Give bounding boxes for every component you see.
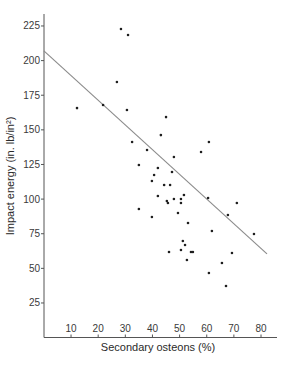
x-tick-label: 10 (65, 323, 77, 334)
data-point (127, 34, 130, 37)
data-point (173, 198, 176, 201)
data-point (211, 230, 214, 233)
y-tick-label: 50 (29, 263, 41, 274)
data-point (200, 151, 203, 154)
data-point (157, 167, 160, 170)
x-tick-label: 50 (174, 323, 186, 334)
data-point (160, 134, 163, 137)
data-point (126, 109, 129, 112)
data-point (151, 216, 154, 219)
data-point (231, 252, 234, 255)
x-tick-label: 40 (147, 323, 159, 334)
y-tick-label: 100 (23, 194, 40, 205)
data-point (184, 244, 187, 247)
data-point (207, 197, 210, 200)
data-point (192, 251, 195, 254)
data-point (131, 141, 134, 144)
data-point (138, 208, 141, 211)
x-tick-label: 60 (201, 323, 213, 334)
data-point (208, 141, 211, 144)
data-point (120, 28, 123, 31)
x-tick-label: 20 (93, 323, 105, 334)
data-point (76, 107, 79, 110)
data-point (180, 202, 183, 205)
data-point (146, 149, 149, 152)
data-point (169, 184, 172, 187)
data-point (186, 259, 189, 262)
data-point (177, 212, 180, 215)
data-point (116, 81, 119, 84)
axes (44, 14, 277, 338)
data-point (180, 249, 183, 252)
y-tick-label: 150 (23, 124, 40, 135)
y-tick-label: 225 (23, 20, 40, 31)
y-tick-label: 125 (23, 159, 40, 170)
x-tick-label: 30 (120, 323, 132, 334)
data-point (180, 198, 183, 201)
data-point (157, 195, 160, 198)
data-point (221, 262, 224, 265)
data-point (236, 202, 239, 205)
y-tick-label: 200 (23, 55, 40, 66)
y-tick-label: 75 (29, 228, 41, 239)
data-point (167, 202, 170, 205)
y-axis-ticks: 255075100125150175200225 (23, 20, 44, 308)
data-point (208, 272, 211, 275)
y-axis-label: Impact energy (in. lb/in²) (4, 117, 16, 236)
data-point (165, 116, 168, 119)
data-point (183, 194, 186, 197)
data-points (76, 28, 256, 288)
x-axis-label: Secondary osteons (%) (101, 341, 215, 353)
data-point (138, 164, 141, 167)
data-point (168, 251, 171, 254)
y-tick-label: 25 (29, 297, 41, 308)
data-point (171, 171, 174, 174)
data-point (173, 156, 176, 159)
scatter-chart: 255075100125150175200225 102030405060708… (0, 0, 291, 370)
regression-line (44, 51, 267, 254)
data-point (153, 174, 156, 177)
data-point (182, 240, 185, 243)
x-axis-ticks: 1020304050607080 (65, 323, 267, 338)
x-tick-label: 70 (228, 323, 240, 334)
y-tick-label: 175 (23, 90, 40, 101)
data-point (227, 214, 230, 217)
x-tick-label: 80 (255, 323, 267, 334)
data-point (187, 222, 190, 225)
data-point (225, 285, 228, 288)
data-point (253, 233, 256, 236)
data-point (151, 180, 154, 183)
data-point (102, 104, 105, 107)
data-point (163, 184, 166, 187)
